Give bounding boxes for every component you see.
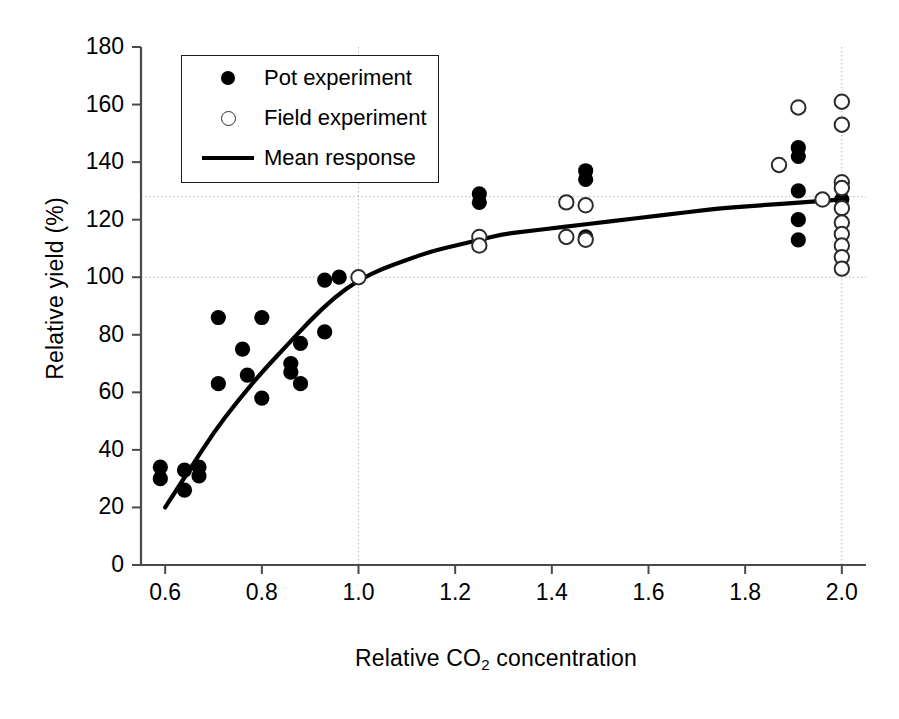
line-swatch-icon — [200, 148, 256, 168]
legend-item-field-experiment: Field experiment — [182, 98, 438, 138]
filled-circle-icon — [200, 68, 256, 88]
chart-figure: Relative yield (%) Relative CO2 concentr… — [0, 0, 899, 719]
legend-label-field-experiment: Field experiment — [264, 105, 427, 131]
legend-label-mean-response: Mean response — [264, 145, 416, 171]
legend-item-mean-response: Mean response — [182, 138, 438, 178]
legend-item-pot-experiment: Pot experiment — [182, 58, 438, 98]
chart-legend: Pot experiment Field experiment Mean res… — [181, 55, 439, 183]
plot-area — [0, 0, 899, 719]
pot-experiment-points — [153, 140, 850, 498]
mean-response-curve — [165, 200, 842, 508]
open-circle-icon — [200, 108, 256, 128]
legend-label-pot-experiment: Pot experiment — [264, 65, 412, 91]
